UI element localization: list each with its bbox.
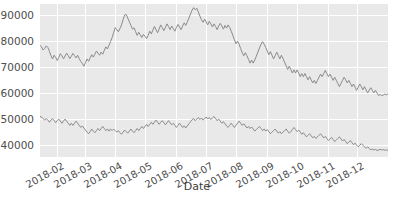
x-axis-label: Date	[0, 181, 394, 192]
chart-figure: 400005000060000700008000090000 2018-0220…	[0, 0, 394, 201]
x-axis-ticks: 2018-022018-032018-042018-052018-062018-…	[0, 0, 394, 201]
